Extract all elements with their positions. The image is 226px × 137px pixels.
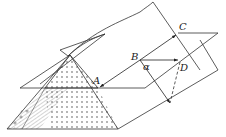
horizontal-plane — [20, 33, 218, 88]
geometry-diagram: A B C D α — [0, 0, 226, 137]
label-B: B — [130, 51, 138, 62]
vector-B-C — [140, 35, 176, 60]
label-alpha: α — [143, 61, 150, 72]
ridge-solid — [7, 55, 118, 129]
label-D: D — [179, 62, 188, 73]
label-C: C — [179, 21, 187, 32]
label-A: A — [92, 75, 100, 86]
vector-B-A — [100, 60, 140, 87]
